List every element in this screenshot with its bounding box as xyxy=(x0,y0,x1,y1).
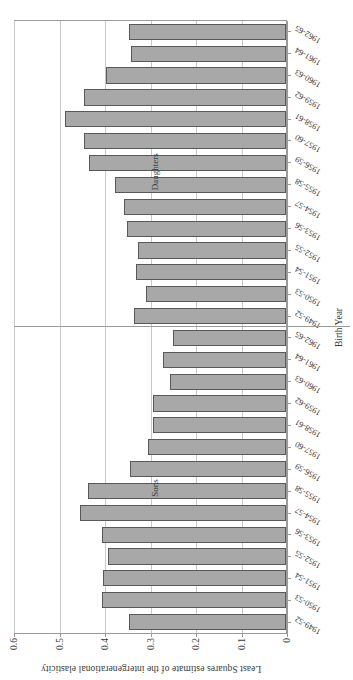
x-tick-mark xyxy=(288,294,291,295)
x-tick-mark xyxy=(288,469,291,470)
bar[interactable] xyxy=(88,483,286,499)
x-tick-mark xyxy=(288,491,291,492)
x-tick-mark xyxy=(288,250,291,251)
x-tick-label: 1960-63 xyxy=(293,374,323,397)
y-axis-title: Least Squares estimate of the intergener… xyxy=(14,662,287,676)
bar[interactable] xyxy=(153,395,286,411)
bar[interactable] xyxy=(138,242,286,258)
bar[interactable] xyxy=(148,439,286,455)
x-tick-mark xyxy=(288,578,291,579)
x-tick-mark xyxy=(288,140,291,141)
x-tick-mark xyxy=(288,556,291,557)
y-tick-mark xyxy=(14,633,15,637)
y-tick-label: 0.4 xyxy=(100,638,110,650)
bar[interactable] xyxy=(84,133,286,149)
bar[interactable] xyxy=(131,46,286,62)
x-tick-mark xyxy=(288,272,291,273)
x-tick-label: 1954-57 xyxy=(293,198,323,221)
bar[interactable] xyxy=(129,24,286,40)
x-tick-mark xyxy=(288,53,291,54)
x-tick-mark xyxy=(288,206,291,207)
bar-slot xyxy=(14,43,286,65)
bar[interactable] xyxy=(80,505,286,521)
x-tick-mark xyxy=(288,119,291,120)
x-tick-label: 1955-58 xyxy=(293,177,323,200)
bar-slot xyxy=(14,327,286,349)
bar[interactable] xyxy=(102,592,286,608)
x-tick-label: 1955-58 xyxy=(293,483,323,506)
bar[interactable] xyxy=(124,199,286,215)
bar[interactable] xyxy=(89,155,286,171)
bar[interactable] xyxy=(84,89,286,105)
x-tick-label: 1961-64 xyxy=(293,352,323,375)
x-tick-label: 1962-65 xyxy=(293,330,323,353)
bar[interactable] xyxy=(134,308,286,324)
bar-slot xyxy=(14,371,286,393)
x-tick-label: 1961-64 xyxy=(293,45,323,68)
x-tick-label: 1958-61 xyxy=(293,417,323,440)
group-label-daughters: Daughters xyxy=(150,153,160,190)
x-tick-label: 1957-60 xyxy=(293,439,323,462)
y-axis-title-text: Least Squares estimate of the intergener… xyxy=(40,664,260,674)
bar[interactable] xyxy=(129,614,286,630)
bar[interactable] xyxy=(170,374,286,390)
bar-slot xyxy=(14,611,286,633)
plot-right-edge xyxy=(14,20,287,21)
bar[interactable] xyxy=(146,286,286,302)
y-tick-label: 0.1 xyxy=(237,638,247,650)
x-tick-mark xyxy=(288,535,291,536)
y-tick-label: 0.3 xyxy=(146,638,156,650)
bar[interactable] xyxy=(65,111,286,127)
y-tick-label: 0 xyxy=(282,638,292,643)
y-tick-mark xyxy=(242,633,243,637)
bar-slot xyxy=(14,21,286,43)
x-tick-label: 1949-52 xyxy=(293,614,323,637)
bar-slot xyxy=(14,218,286,240)
bar[interactable] xyxy=(130,461,286,477)
x-tick-label: 1959-62 xyxy=(293,395,323,418)
x-tick-label: 1953-56 xyxy=(293,220,323,243)
bar[interactable] xyxy=(108,548,286,564)
bar-slot xyxy=(14,108,286,130)
bar[interactable] xyxy=(153,417,286,433)
bar-slot xyxy=(14,305,286,327)
x-tick-mark xyxy=(288,31,291,32)
bar[interactable] xyxy=(127,221,286,237)
x-tick-mark xyxy=(288,228,291,229)
bar-slot xyxy=(14,240,286,262)
bar[interactable] xyxy=(136,264,286,280)
x-tick-mark xyxy=(288,162,291,163)
bar[interactable] xyxy=(102,527,286,543)
bar[interactable] xyxy=(173,330,286,346)
x-tick-mark xyxy=(288,97,291,98)
bar-slot xyxy=(14,130,286,152)
bar-slot xyxy=(14,87,286,109)
bar[interactable] xyxy=(115,177,286,193)
x-tick-mark xyxy=(288,381,291,382)
bar-slot xyxy=(14,65,286,87)
y-tick-label: 0.6 xyxy=(9,638,19,650)
bar-chart-figure: Least Squares estimate of the intergener… xyxy=(0,0,353,680)
bar-slot xyxy=(14,349,286,371)
y-tick-mark xyxy=(60,633,61,637)
bar-slot xyxy=(14,546,286,568)
bar[interactable] xyxy=(163,352,286,368)
x-tick-label: 1956-59 xyxy=(293,461,323,484)
y-tick-mark xyxy=(151,633,152,637)
x-tick-mark xyxy=(288,513,291,514)
y-tick-label: 0.5 xyxy=(55,638,65,650)
x-tick-label: 1951-54 xyxy=(293,571,323,594)
x-tick-label: 1960-63 xyxy=(293,67,323,90)
bar[interactable] xyxy=(103,570,286,586)
bar[interactable] xyxy=(106,68,286,84)
x-tick-label: 1951-54 xyxy=(293,264,323,287)
x-tick-mark xyxy=(288,75,291,76)
bar-slot xyxy=(14,567,286,589)
x-tick-label: 1956-59 xyxy=(293,155,323,178)
plot-area: 00.10.20.30.40.50.6 xyxy=(14,21,287,634)
x-tick-label: 1954-57 xyxy=(293,505,323,528)
x-tick-mark xyxy=(288,316,291,317)
x-tick-mark xyxy=(288,622,291,623)
bar-slot xyxy=(14,261,286,283)
x-tick-label: 1957-60 xyxy=(293,133,323,156)
